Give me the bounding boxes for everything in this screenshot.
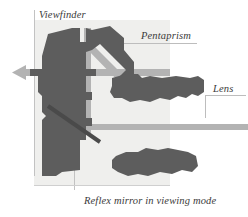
upper-lens-group <box>110 74 204 102</box>
figure-canvas: Viewfinder Pentaprism Lens Reflex mirror… <box>0 0 248 217</box>
slr-camera-cross-section: Viewfinder Pentaprism Lens Reflex mirror… <box>0 0 248 217</box>
light-ray-horizontal-lower <box>84 124 248 130</box>
viewfinder-label: Viewfinder <box>39 9 87 20</box>
pentaprism-label: Pentaprism <box>140 30 191 41</box>
figure-caption: Reflex mirror in viewing mode <box>83 195 216 206</box>
lens-label: Lens <box>212 83 233 94</box>
